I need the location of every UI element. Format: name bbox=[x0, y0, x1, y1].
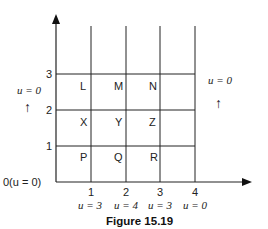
x-tick-1: 1 bbox=[88, 186, 94, 198]
cell-R: R bbox=[150, 151, 158, 163]
x-tick-2: 2 bbox=[123, 186, 129, 198]
figure-canvas: 3 2 1 0(u = 0) 1 2 3 4 u = 3 u = 4 u = 3… bbox=[0, 0, 268, 229]
cell-Y: Y bbox=[115, 116, 123, 128]
cell-Q: Q bbox=[114, 151, 123, 163]
left-up-arrow-icon: ↑ bbox=[24, 99, 31, 115]
y-tick-3: 3 bbox=[46, 68, 52, 80]
figure-caption: Figure 15.19 bbox=[106, 215, 173, 227]
cell-P: P bbox=[80, 151, 87, 163]
grid-diagram: 3 2 1 0(u = 0) 1 2 3 4 u = 3 u = 4 u = 3… bbox=[0, 0, 268, 229]
cell-N: N bbox=[149, 80, 157, 92]
right-up-arrow-icon: ↑ bbox=[215, 95, 222, 111]
bottom-boundary-4: u = 0 bbox=[183, 199, 207, 211]
bottom-boundary-3: u = 3 bbox=[148, 199, 172, 211]
x-axis-arrow-icon bbox=[242, 178, 252, 186]
y-axis-arrow-icon bbox=[52, 14, 60, 24]
bottom-boundary-2: u = 4 bbox=[114, 199, 138, 211]
origin-label: 0(u = 0) bbox=[3, 176, 41, 188]
y-tick-2: 2 bbox=[46, 104, 52, 116]
x-tick-3: 3 bbox=[157, 186, 163, 198]
cell-M: M bbox=[114, 80, 123, 92]
right-boundary: u = 0 bbox=[208, 74, 232, 86]
cell-L: L bbox=[80, 80, 86, 92]
y-tick-1: 1 bbox=[46, 140, 52, 152]
bottom-boundary-1: u = 3 bbox=[78, 199, 102, 211]
left-boundary: u = 0 bbox=[17, 84, 41, 96]
cell-X: X bbox=[80, 116, 88, 128]
x-tick-4: 4 bbox=[192, 186, 198, 198]
cell-Z: Z bbox=[149, 116, 156, 128]
